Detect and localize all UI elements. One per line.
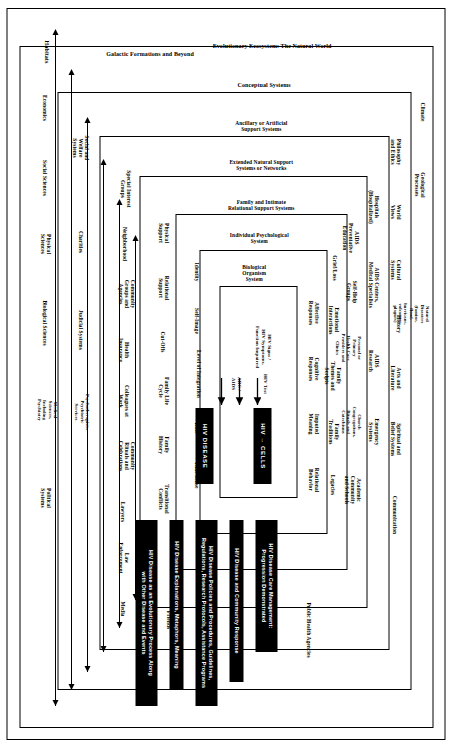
label-affective-responses: Affective Responses [307,288,319,338]
label-social-welfare-systems: Social and Welfare Systems [70,120,89,176]
axis-label-habitats: Habitats [42,22,49,82]
label-economics: Economics [41,80,47,136]
label-grief-loss: Grief/Loss [331,246,337,290]
figure-stage: Evolutionary Ecosystem: The Natural Worl… [0,0,453,746]
core-hiv-cells: HIV → CELLS [253,408,271,484]
label-medical-sciences: Medical Sciences, Including Psychiatry [35,382,57,438]
label-media: Media [119,588,125,630]
label-hospitals: Hospitals (Hospitalized) [367,176,379,238]
label-emergency-systems: Emergency Systems [367,404,379,460]
label-arc-aids: ARC / AIDS [229,366,241,402]
label-philosophy-ethics: Philosophy and Ethics [389,124,401,180]
label-family-life-cycle: Family Life Cycle [157,366,169,416]
label-self-image: Self-Image [193,298,199,344]
label-law-enforcement: Law Enforcement [117,532,129,584]
label-imputed-meaning: Imputed Meaning [307,400,319,448]
label-cognitive-responses: Cognitive Responses [307,344,319,394]
bar-evolutionary: HIV Disease as an Evolutionary Process A… [135,520,157,706]
ring-label-artificial-support: Ancillary or Artificial Support Systems [195,120,327,132]
diagram-canvas: Evolutionary Ecosystem: The Natural Worl… [0,0,453,746]
ring-label-extended-natural: Extended Natural Support Systems or Netw… [196,159,326,171]
label-colleagues-at-work: Colleagues at Work [117,376,129,426]
bar-explanations: HIV Disease Explanations, Metaphors, Mea… [169,520,183,690]
label-legacies: Legacies [329,462,335,508]
ring-label-natural-world: Evolutionary Ecosystem: The Natural Worl… [172,43,372,50]
core-hiv-disease: HIV DISEASE [195,408,213,484]
label-political-systems: Political Systems [39,470,51,526]
label-geological-processes: Geological Processes [413,156,425,214]
label-identity: Identity [193,250,199,294]
label-cut-offs: Cut-Offs [159,320,165,364]
label-health-insurance: Health Insurance [117,326,129,374]
label-aids-research: AIDS Research [367,336,379,386]
label-family-history: Family History [157,422,169,468]
label-relational-behavior: Relational Behavior [307,454,319,506]
label-social-sciences: Social Sciences [41,146,47,210]
label-relational-support: Relational Support [157,262,169,314]
label-hiv-test: HIV Test [261,366,267,402]
bar-policies: HIV Disease Policies and Procedures, Gui… [195,520,217,706]
label-community-groups-agencies: Community Groups and Agencies [116,266,135,322]
label-physical-sciences: Physical Sciences [39,216,51,272]
axis-label-galactic-formations: Galactic Formations and Beyond [80,51,220,58]
label-special-interest-groups: Special Interest Groups [119,160,131,218]
label-charities: Charities [77,216,83,268]
label-biological-sciences: Biological Sciences [41,288,47,358]
bar-care-management: HIV Disease Care Management: Progression… [255,520,277,652]
label-communication: Communication [391,480,397,550]
bar-community-response: HIV Disease and Community Response [229,520,243,682]
label-cultural-systems: Cultural Systems [389,244,401,296]
label-neighborhood: Neighborhood [121,216,127,272]
ring-label-family-intimate: Family and Intimate Relational Support S… [198,199,324,211]
ring-label-biological-organism: Biological Organism System [219,264,289,283]
label-physical-support: Physical Support [157,208,169,258]
ring-label-conceptual: Conceptual Systems [189,82,339,89]
label-spiritual-belief-systems: Spiritual and Belief Systems [389,408,401,470]
label-emotional-interactions: Emotional Interactions [327,294,339,346]
label-community-rituals-celebrations: Community Rituals and Celebrations [116,428,135,484]
label-judicial-systems: Judicial Systems [77,300,83,360]
label-arts-literature: Arts and Literature [389,352,401,404]
label-world-views: World Views [389,188,401,236]
label-public-health-agencies: Public Health Agencies [305,584,311,676]
label-history: History [395,302,401,346]
label-aids-centers: AIDS Centers, Medical Specialists [367,250,379,320]
label-family-traditions: Family Traditions [327,408,339,456]
label-lawyers: Lawyers [119,490,125,534]
label-climate: Climate [419,86,425,138]
ring-label-individual-psych: Individual Psychological System [203,232,315,244]
label-transitional-conflicts: Transitional Conflicts [157,472,169,526]
label-psychotherapists: Psychotherapists, Psychiatric Services [73,378,89,446]
